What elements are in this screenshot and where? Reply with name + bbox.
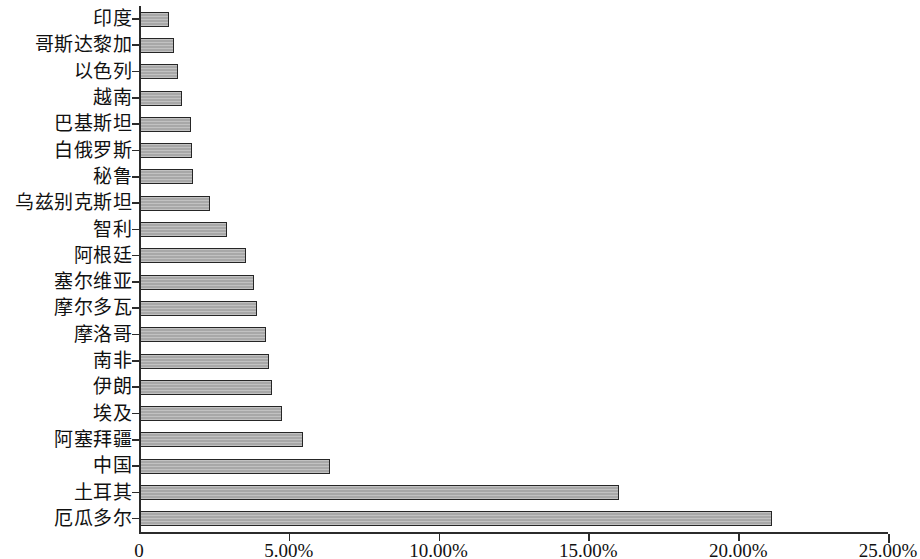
bar-row: 印度 [0, 6, 920, 32]
bar-row: 秘鲁 [0, 164, 920, 190]
bar-row: 南非 [0, 348, 920, 374]
bar [140, 485, 619, 500]
category-label: 巴基斯坦 [0, 114, 132, 133]
category-label: 以色列 [0, 62, 132, 81]
category-label: 伊朗 [0, 377, 132, 396]
bar-row: 智利 [0, 216, 920, 242]
bar [140, 38, 174, 53]
bar [140, 301, 257, 316]
y-axis-tick [132, 229, 139, 231]
category-label: 塞尔维亚 [0, 272, 132, 291]
category-label: 中国 [0, 456, 132, 475]
y-axis-tick [132, 281, 139, 283]
category-label: 白俄罗斯 [0, 141, 132, 160]
y-axis-tick [132, 97, 139, 99]
y-axis-tick [132, 465, 139, 467]
category-label: 摩尔多瓦 [0, 298, 132, 317]
x-axis-line [139, 532, 888, 534]
bar [140, 12, 169, 27]
bar-row: 阿塞拜疆 [0, 427, 920, 453]
bar-row: 阿根廷 [0, 243, 920, 269]
bar-row: 土耳其 [0, 479, 920, 505]
bar-row: 巴基斯坦 [0, 111, 920, 137]
x-axis-tick-label: 0 [59, 541, 219, 559]
category-label: 印度 [0, 9, 132, 28]
category-label: 南非 [0, 351, 132, 370]
bar-row: 埃及 [0, 401, 920, 427]
category-label: 智利 [0, 220, 132, 239]
category-label: 厄瓜多尔 [0, 509, 132, 528]
bar [140, 406, 282, 421]
bar-rows: 印度哥斯达黎加以色列越南巴基斯坦白俄罗斯秘鲁乌兹别克斯坦智利阿根廷塞尔维亚摩尔多… [0, 6, 920, 532]
bar-row: 白俄罗斯 [0, 138, 920, 164]
bar [140, 511, 772, 526]
bar-row: 摩尔多瓦 [0, 295, 920, 321]
bar [140, 91, 182, 106]
bar [140, 459, 330, 474]
category-label: 阿根廷 [0, 246, 132, 265]
bar-row: 伊朗 [0, 374, 920, 400]
bar [140, 432, 303, 447]
bar [140, 196, 210, 211]
category-label: 秘鲁 [0, 167, 132, 186]
bar [140, 64, 178, 79]
x-axis-tick-label: 20.00% [658, 541, 818, 559]
y-axis-tick [132, 44, 139, 46]
bar-row: 塞尔维亚 [0, 269, 920, 295]
bar [140, 117, 191, 132]
category-label: 阿塞拜疆 [0, 430, 132, 449]
y-axis-tick [132, 386, 139, 388]
y-axis-tick [132, 334, 139, 336]
y-axis-tick [132, 255, 139, 257]
bar-row: 越南 [0, 85, 920, 111]
category-label: 摩洛哥 [0, 325, 132, 344]
x-axis-tick-label: 15.00% [508, 541, 668, 559]
category-label: 土耳其 [0, 483, 132, 502]
bar [140, 275, 254, 290]
y-axis-tick [132, 492, 139, 494]
bar-row: 摩洛哥 [0, 322, 920, 348]
bar [140, 354, 269, 369]
y-axis-tick [132, 307, 139, 309]
y-axis-tick [132, 176, 139, 178]
x-axis-tick-label: 10.00% [359, 541, 519, 559]
y-axis-tick [132, 202, 139, 204]
bar-row: 哥斯达黎加 [0, 32, 920, 58]
bar [140, 380, 272, 395]
y-axis-tick [132, 413, 139, 415]
bar [140, 327, 266, 342]
bar-row: 厄瓜多尔 [0, 506, 920, 532]
bar [140, 143, 192, 158]
y-axis-tick [132, 18, 139, 20]
y-axis-tick [132, 518, 139, 520]
y-axis-tick [132, 123, 139, 125]
category-label: 乌兹别克斯坦 [0, 193, 132, 212]
bar [140, 248, 246, 263]
bar-chart: 印度哥斯达黎加以色列越南巴基斯坦白俄罗斯秘鲁乌兹别克斯坦智利阿根廷塞尔维亚摩尔多… [0, 0, 920, 559]
bar [140, 169, 193, 184]
y-axis-tick [132, 71, 139, 73]
x-axis-tick-label: 25.00% [808, 541, 920, 559]
category-label: 越南 [0, 88, 132, 107]
x-axis-tick-label: 5.00% [209, 541, 369, 559]
y-axis-tick [132, 360, 139, 362]
bar-row: 乌兹别克斯坦 [0, 190, 920, 216]
bar [140, 222, 227, 237]
category-label: 哥斯达黎加 [0, 35, 132, 54]
y-axis-tick [132, 439, 139, 441]
y-axis-tick [132, 150, 139, 152]
bar-row: 中国 [0, 453, 920, 479]
category-label: 埃及 [0, 404, 132, 423]
bar-row: 以色列 [0, 59, 920, 85]
